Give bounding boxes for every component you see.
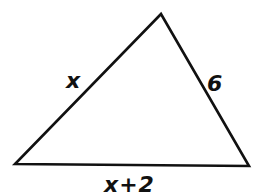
bottom-side-label: x+2 [103,172,155,196]
left-side-label: x [65,68,81,93]
right-side-label: 6 [207,71,222,96]
triangle-diagram: x 6 x+2 [0,0,255,196]
